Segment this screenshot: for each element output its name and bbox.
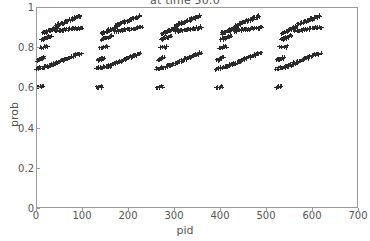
data-point-marker [220, 85, 224, 89]
data-point-marker [307, 28, 311, 32]
data-point-marker [65, 19, 69, 23]
data-point-marker [170, 27, 174, 31]
data-point-marker [96, 58, 100, 62]
data-point-marker [58, 29, 62, 33]
y-tick-label: 1 [6, 2, 34, 13]
data-point-marker [186, 19, 190, 23]
data-point-marker [73, 27, 77, 31]
data-point-marker [192, 26, 196, 30]
data-point-marker [296, 59, 300, 63]
data-point-marker [312, 26, 316, 30]
data-point-marker [45, 65, 49, 69]
data-point-marker [45, 36, 49, 40]
data-point-marker [105, 30, 109, 34]
data-point-marker [282, 36, 286, 40]
data-point-marker [275, 58, 279, 62]
data-point-marker [103, 31, 107, 35]
data-point-marker [246, 55, 250, 59]
data-point-marker [237, 28, 241, 32]
data-point-marker [38, 65, 42, 69]
data-point-marker [216, 86, 220, 90]
data-point-marker [108, 63, 112, 67]
data-point-marker [216, 66, 220, 70]
data-point-marker [45, 30, 49, 34]
data-point-marker [214, 68, 218, 72]
data-point-marker [218, 67, 222, 71]
data-point-marker [61, 58, 65, 62]
data-point-marker [44, 36, 48, 40]
data-point-marker [46, 30, 50, 34]
data-point-marker [71, 54, 75, 58]
data-point-marker [45, 35, 49, 39]
data-point-marker [179, 58, 183, 62]
data-point-marker [176, 21, 180, 25]
data-point-marker [317, 52, 321, 56]
data-point-marker [73, 54, 77, 58]
data-point-marker [40, 56, 44, 60]
data-point-marker [307, 28, 311, 32]
data-point-marker [55, 26, 59, 30]
data-point-marker [282, 55, 286, 59]
data-point-marker [108, 34, 112, 38]
data-point-marker [178, 22, 182, 26]
data-point-marker [190, 27, 194, 31]
data-point-marker [246, 55, 250, 59]
data-point-marker [39, 38, 43, 42]
data-point-marker [258, 25, 262, 29]
data-point-marker [157, 67, 161, 71]
data-point-marker [62, 57, 66, 61]
data-point-marker [236, 23, 240, 27]
data-point-marker [316, 16, 320, 20]
data-point-marker [197, 51, 201, 55]
data-point-marker [255, 51, 259, 55]
data-point-marker [241, 27, 245, 31]
data-point-marker [41, 38, 45, 42]
data-point-marker [62, 27, 66, 31]
data-point-marker [160, 55, 164, 59]
data-point-marker [242, 27, 246, 31]
data-point-marker [172, 25, 176, 29]
data-point-marker [101, 66, 105, 70]
data-point-marker [171, 27, 175, 31]
data-point-marker [225, 64, 229, 68]
data-point-marker [41, 57, 45, 61]
data-point-marker [255, 16, 259, 20]
data-point-marker [78, 27, 82, 31]
data-point-marker [61, 29, 65, 33]
data-point-marker [162, 30, 166, 34]
data-point-marker [276, 67, 280, 71]
data-point-marker [166, 29, 170, 33]
data-point-marker [171, 27, 175, 31]
data-point-marker [199, 51, 203, 55]
data-point-marker [119, 22, 123, 26]
data-point-marker [41, 46, 45, 50]
data-point-marker [299, 59, 303, 63]
data-point-marker [235, 30, 239, 34]
data-point-marker [217, 58, 221, 62]
data-point-marker [311, 53, 315, 57]
data-point-marker [168, 34, 172, 38]
data-point-marker [170, 28, 174, 32]
data-point-marker [164, 66, 168, 70]
data-point-marker [235, 61, 239, 65]
data-point-marker [221, 46, 225, 50]
data-point-marker [107, 27, 111, 31]
data-point-marker [235, 25, 239, 29]
data-point-marker [225, 35, 229, 39]
data-point-marker [108, 27, 112, 31]
data-point-marker [70, 54, 74, 58]
data-point-marker [43, 31, 47, 35]
data-point-marker [68, 17, 72, 21]
data-point-marker [305, 19, 309, 23]
data-point-marker [285, 36, 289, 40]
data-point-marker [55, 60, 59, 64]
data-point-marker [37, 58, 41, 62]
data-point-marker [106, 64, 110, 68]
data-point-marker [303, 19, 307, 23]
data-point-marker [104, 65, 108, 69]
data-point-marker [50, 62, 54, 66]
data-point-marker [132, 17, 136, 21]
data-point-marker [228, 27, 232, 31]
data-point-marker [260, 25, 264, 29]
data-point-marker [222, 55, 226, 59]
